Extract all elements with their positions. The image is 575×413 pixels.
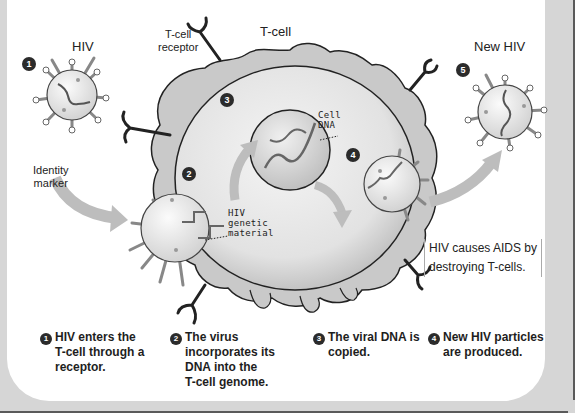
label-cell-dna: Cell DNA (318, 110, 341, 130)
caption-4-line-1: New HIV particles (443, 330, 544, 344)
aids-note-line2: destroying T-cells. (429, 258, 537, 277)
caption-step-3: 3The viral DNA is copied. (313, 330, 420, 360)
label-t-cell: T-cell (260, 25, 291, 38)
caption-3-line-2: copied. (313, 345, 420, 360)
caption-1-line-3: receptor. (40, 360, 144, 375)
caption-4-number: 4 (428, 333, 440, 345)
caption-step-2: 2The virus incorporates its DNA into the… (170, 330, 275, 390)
aids-note-line1: HIV causes AIDS by (429, 239, 537, 258)
caption-1-line-1: HIV enters the (55, 330, 136, 344)
step-badge-1: 1 (22, 57, 36, 71)
hiv-virus-entering (33, 58, 109, 133)
label-t-cell-receptor: T-cell receptor (158, 28, 198, 54)
caption-step-1: 1HIV enters the T-cell through a recepto… (40, 330, 144, 375)
aids-note: HIV causes AIDS by destroying T-cells. (424, 239, 542, 277)
step-badge-4: 4 (346, 148, 360, 162)
caption-2-line-4: T-cell genome. (170, 375, 275, 390)
label-hiv-genetic-line3: material (228, 228, 274, 238)
new-hiv-virus (465, 75, 547, 151)
caption-1-number: 1 (40, 333, 52, 345)
label-hiv-genetic-line2: genetic (228, 218, 274, 228)
caption-2-line-1: The virus (185, 330, 238, 344)
caption-3-number: 3 (313, 333, 325, 345)
label-t-cell-receptor-line2: receptor (158, 41, 198, 54)
caption-1-line-2: T-cell through a (40, 345, 144, 360)
caption-4-line-2: are produced. (428, 345, 544, 360)
label-identity-marker-line1: Identity (33, 164, 68, 177)
caption-step-4: 4New HIV particles are produced. (428, 330, 544, 360)
caption-3-line-1: The viral DNA is (328, 330, 420, 344)
step-badge-2: 2 (182, 167, 196, 181)
label-identity-marker-line2: marker (33, 177, 68, 190)
label-cell-dna-line2: DNA (318, 120, 341, 130)
label-hiv-genetic-line1: HIV (228, 208, 274, 218)
label-hiv: HIV (72, 40, 94, 53)
label-identity-marker: Identity marker (33, 164, 68, 190)
label-new-hiv: New HIV (474, 40, 525, 53)
caption-2-line-2: incorporates its (170, 345, 275, 360)
caption-2-line-3: DNA into the (170, 360, 275, 375)
caption-2-number: 2 (170, 333, 182, 345)
label-cell-dna-line1: Cell (318, 110, 341, 120)
step-badge-5: 5 (456, 63, 470, 77)
label-hiv-genetic-material: HIV genetic material (228, 208, 274, 238)
label-t-cell-receptor-line1: T-cell (158, 28, 198, 41)
step-badge-3: 3 (220, 93, 234, 107)
